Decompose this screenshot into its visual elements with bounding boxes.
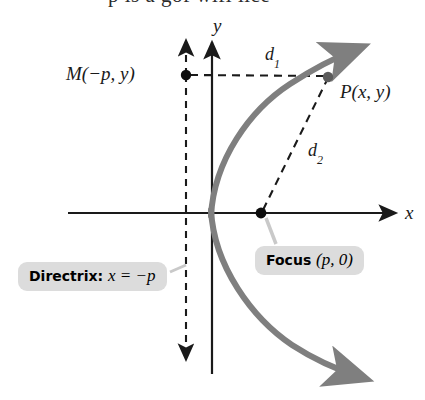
- directrix-callout-prefix: Directrix:: [29, 268, 103, 284]
- focus-callout-coords: (p, 0): [316, 250, 353, 269]
- distance-d1-base: d: [265, 44, 274, 64]
- diagram-canvas: [0, 0, 425, 400]
- x-axis-label: x: [405, 203, 413, 222]
- distance-d2-label: d2: [308, 141, 323, 163]
- distance-d2-subscript: 2: [317, 153, 323, 167]
- distance-d1-label: d1: [265, 45, 280, 67]
- point-m-dot: [181, 70, 191, 80]
- directrix-callout: Directrix: x = −p: [18, 262, 167, 291]
- focus-callout-prefix: Focus: [266, 252, 311, 268]
- parabola-lower-branch: [211, 210, 360, 377]
- distance-d1-subscript: 1: [274, 57, 280, 71]
- directrix-callout-equation: x = −p: [108, 266, 156, 285]
- point-p-dot: [323, 72, 333, 82]
- parabola-upper-branch: [211, 49, 357, 216]
- distance-d2-base: d: [308, 140, 317, 160]
- focus-callout: Focus (p, 0): [255, 246, 364, 275]
- parabola-figure: p is a gof wifi lice: [0, 0, 425, 400]
- directrix-leader-line: [170, 265, 186, 272]
- point-p-label: P(x, y): [340, 82, 391, 101]
- point-m-label: M(−p, y): [66, 64, 135, 83]
- point-focus-dot: [256, 208, 267, 219]
- y-axis-label: y: [213, 16, 221, 35]
- focus-leader-line: [266, 218, 276, 244]
